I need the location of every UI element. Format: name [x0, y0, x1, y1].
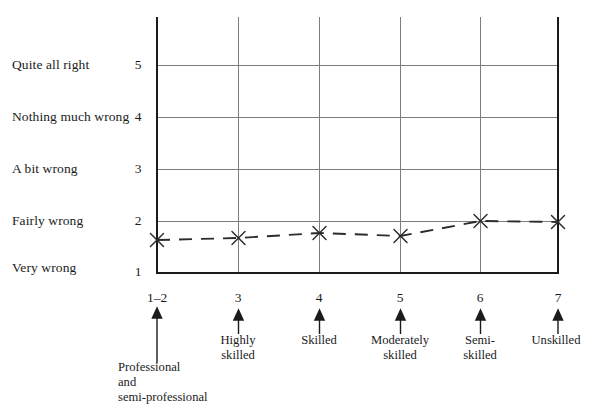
x-category-label-skilled-line1: Skilled — [301, 333, 337, 348]
x-category-label-moderately-skilled: Moderately skilled — [371, 333, 429, 363]
x-tick-label-3: 3 — [235, 290, 242, 306]
x-category-label-professional: Professional and semi-professional — [118, 360, 208, 405]
y-tick-label-2: 2 — [131, 213, 145, 229]
y-category-label-fairly-wrong: Fairly wrong — [12, 213, 83, 229]
x-tick-label-1-2: 1–2 — [147, 290, 167, 306]
y-category-label-quite-all-right: Quite all right — [12, 57, 89, 73]
y-category-label-a-bit-wrong: A bit wrong — [12, 161, 78, 177]
y-tick-label-1: 1 — [131, 264, 145, 280]
y-tick-label-5: 5 — [131, 57, 145, 73]
x-category-label-highly-skilled-line2: skilled — [221, 348, 256, 363]
x-category-label-professional-line3: semi-professional — [118, 390, 208, 405]
x-category-label-semi-skilled-line1: Semi- — [463, 333, 497, 348]
x-category-label-semi-skilled: Semi- skilled — [463, 333, 497, 363]
x-category-label-unskilled-line1: Unskilled — [532, 333, 581, 348]
x-tick-label-6: 6 — [477, 290, 484, 306]
x-category-label-moderately-skilled-line1: Moderately — [371, 333, 429, 348]
x-category-label-highly-skilled-line1: Highly — [221, 333, 256, 348]
x-category-label-professional-line2: and — [118, 375, 208, 390]
y-tick-label-4: 4 — [131, 109, 145, 125]
x-tick-label-7: 7 — [555, 290, 562, 306]
x-tick-label-4: 4 — [316, 290, 323, 306]
x-category-label-professional-line1: Professional — [118, 360, 208, 375]
y-category-label-nothing-much-wrong: Nothing much wrong — [12, 109, 129, 125]
x-tick-label-5: 5 — [397, 290, 404, 306]
x-category-label-moderately-skilled-line2: skilled — [371, 348, 429, 363]
y-category-label-very-wrong: Very wrong — [12, 260, 76, 276]
y-tick-label-3: 3 — [131, 161, 145, 177]
x-category-label-semi-skilled-line2: skilled — [463, 348, 497, 363]
x-category-label-skilled: Skilled — [301, 333, 337, 348]
x-category-label-highly-skilled: Highly skilled — [221, 333, 256, 363]
x-category-label-unskilled: Unskilled — [532, 333, 581, 348]
